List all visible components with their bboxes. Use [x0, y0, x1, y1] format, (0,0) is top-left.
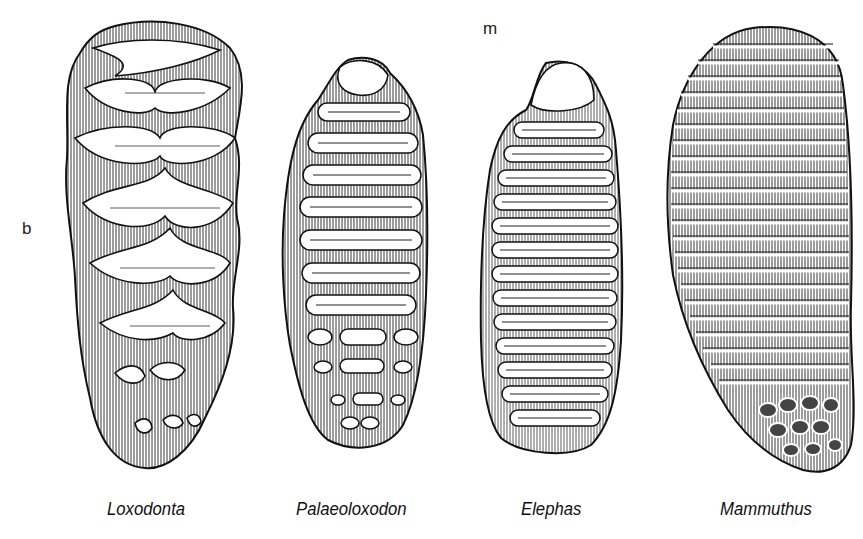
elephas-molar-illustration: [476, 60, 636, 455]
panel-label-b: b: [22, 219, 31, 239]
panel-label-m: m: [483, 19, 497, 39]
caption-elephas: Elephas: [521, 498, 581, 520]
caption-loxodonta: Loxodonta: [107, 498, 185, 520]
palaeoloxodon-molar-illustration: [278, 55, 443, 455]
caption-mammuthus: Mammuthus: [720, 498, 812, 520]
mammuthus-molar-illustration: [663, 25, 858, 475]
caption-palaeoloxodon: Palaeoloxodon: [296, 498, 407, 520]
loxodonta-molar-illustration: [55, 18, 255, 473]
